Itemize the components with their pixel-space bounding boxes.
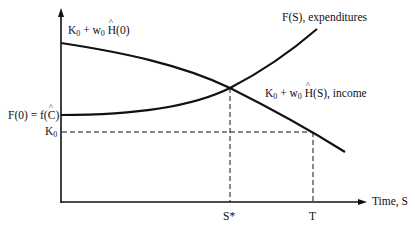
k0-label: K0 [45, 126, 57, 139]
s-star-label: S* [223, 211, 235, 223]
expenditures-label: F(S), expenditures [282, 12, 367, 24]
t-label: T [309, 211, 316, 223]
income-label: K0 + w0 H(S), income [265, 88, 367, 101]
x-axis-label: Time, S [372, 196, 408, 208]
income-intercept-label: K0 + w0 H(0) [68, 25, 129, 38]
diagram-canvas [0, 0, 415, 228]
f0-label: F(0) = f(C) [8, 110, 59, 122]
x-axis-arrow-icon [358, 199, 367, 205]
y-axis-arrow-icon [58, 8, 64, 17]
